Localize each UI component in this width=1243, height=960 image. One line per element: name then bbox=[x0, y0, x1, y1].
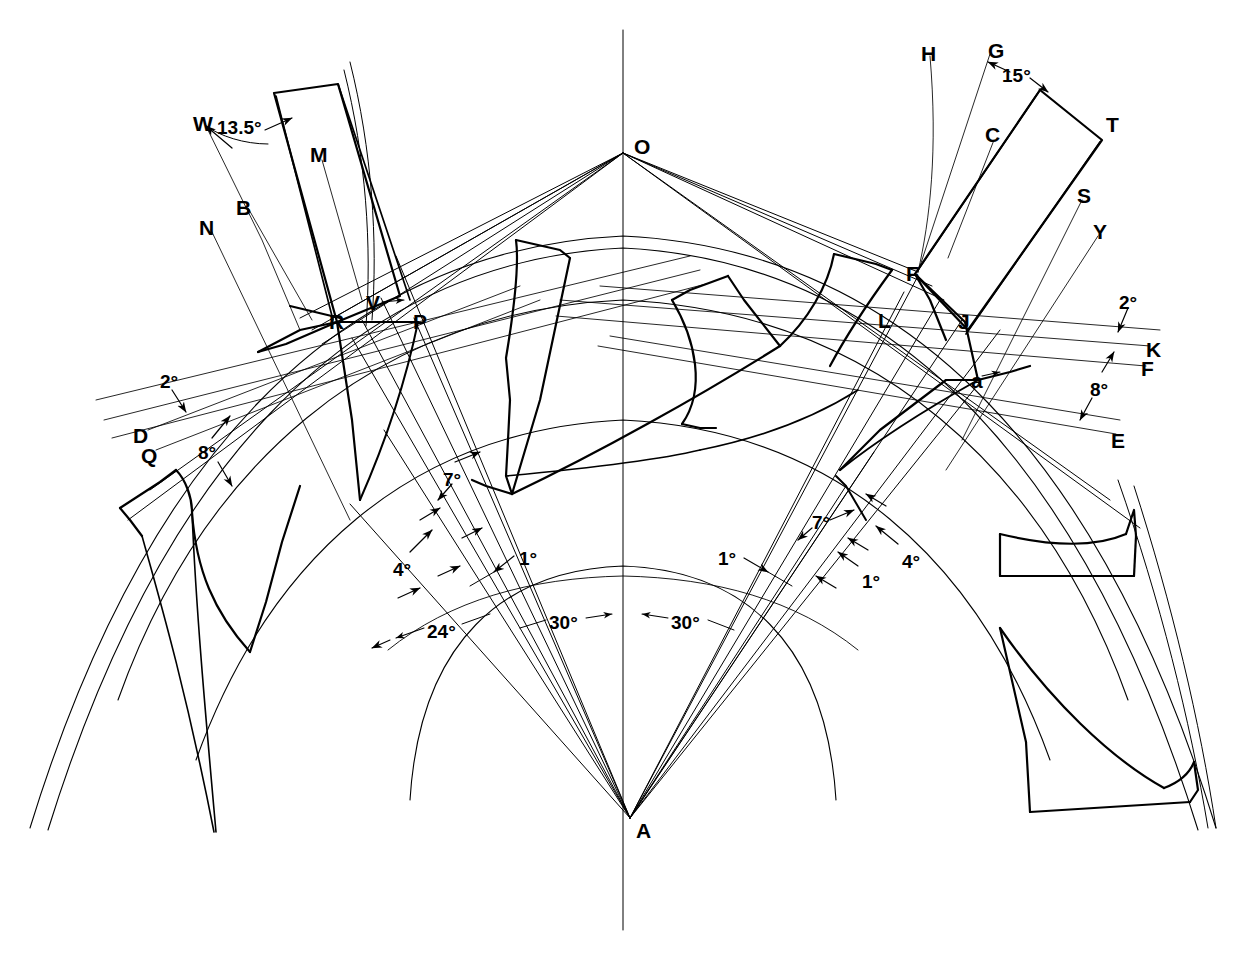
point-label-S: S bbox=[1077, 185, 1091, 206]
point-label-G: G bbox=[988, 40, 1005, 61]
angle-label-4-deg-left: 4° bbox=[393, 560, 411, 579]
point-label-J: J bbox=[958, 311, 970, 332]
point-label-F-upper: F bbox=[906, 263, 919, 284]
point-label-M: M bbox=[310, 144, 328, 165]
point-label-L: L bbox=[878, 310, 891, 331]
angle-label-1-deg-right-outer: 1° bbox=[718, 549, 736, 568]
left-cutter-inner-edges bbox=[276, 84, 410, 320]
center-tooth-left bbox=[472, 240, 570, 494]
angle-label-24-deg: 24° bbox=[427, 622, 456, 641]
point-label-a: a bbox=[971, 370, 983, 391]
angle-label-7-deg-left: 7° bbox=[443, 470, 461, 489]
right-cutter-rectangle bbox=[915, 90, 1102, 330]
point-label-V: V bbox=[366, 292, 380, 313]
angle-label-2-deg-right: 2° bbox=[1119, 293, 1137, 312]
angle-label-30-deg-right: 30° bbox=[671, 613, 700, 632]
dim-4-left bbox=[410, 508, 440, 552]
angle-label-8-deg-right: 8° bbox=[1090, 380, 1108, 399]
right-outer-tooth-upper bbox=[1000, 510, 1136, 576]
dim-1-left bbox=[470, 556, 514, 586]
gear-geometry-drawing bbox=[0, 0, 1243, 960]
center-tooth-middle bbox=[512, 276, 780, 494]
left-outer-tooth bbox=[120, 470, 300, 652]
dim-2-left bbox=[172, 390, 186, 412]
point-label-N: N bbox=[199, 217, 214, 238]
point-label-T: T bbox=[1106, 114, 1119, 135]
dim-4-right bbox=[876, 526, 898, 544]
point-label-R: R bbox=[329, 311, 344, 332]
angle-label-7-deg-right: 7° bbox=[812, 513, 830, 532]
point-label-C: C bbox=[985, 124, 1000, 145]
dim-1-right-inner bbox=[838, 552, 858, 566]
point-label-O: O bbox=[634, 136, 651, 157]
angle-label-4-deg-right: 4° bbox=[902, 552, 920, 571]
dim-1-right-outer bbox=[744, 558, 792, 586]
right-tooth-flank bbox=[836, 380, 978, 520]
point-label-D: D bbox=[133, 425, 148, 446]
angle-label-15-deg: 15° bbox=[1002, 66, 1031, 85]
right-cutter-inner-edges bbox=[918, 90, 1100, 334]
point-label-B: B bbox=[236, 197, 251, 218]
outer-rim-arcs bbox=[1118, 480, 1216, 828]
point-label-Q: Q bbox=[141, 445, 158, 466]
apex-A-rays bbox=[350, 256, 1000, 818]
angle-label-1-deg-right-inner: 1° bbox=[862, 572, 880, 591]
left-outer-tooth-flank bbox=[142, 512, 216, 832]
center-lower-boundary bbox=[506, 390, 858, 476]
point-label-Y: Y bbox=[1093, 221, 1107, 242]
point-label-P: P bbox=[413, 311, 427, 332]
angle-label-2-deg-left: 2° bbox=[160, 372, 178, 391]
point-label-E: E bbox=[1111, 430, 1125, 451]
center-tooth-right bbox=[780, 254, 892, 366]
point-label-F-lower: F bbox=[1141, 358, 1154, 379]
angle-label-13-5-deg: 13.5° bbox=[217, 118, 262, 137]
angle-label-8-deg-left: 8° bbox=[198, 443, 216, 462]
point-label-A: A bbox=[636, 820, 651, 841]
right-guide-lines bbox=[556, 54, 1160, 470]
angle-label-30-deg-left: 30° bbox=[549, 613, 578, 632]
right-outer-tooth-lower bbox=[1000, 628, 1198, 812]
point-label-H: H bbox=[921, 43, 936, 64]
angle-label-1-deg-left: 1° bbox=[519, 549, 537, 568]
point-label-W: W bbox=[193, 113, 213, 134]
diagram-canvas: O A W M B N V R P D Q H G C T S Y F L J … bbox=[0, 0, 1243, 960]
